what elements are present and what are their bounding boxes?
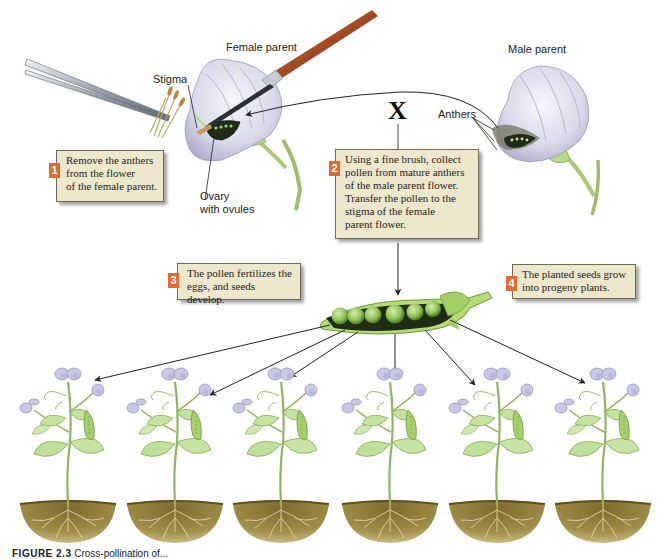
step-2-callout: Using a fine brush, collect pollen from … [335, 149, 479, 239]
step-1-badge: 1 [49, 163, 60, 178]
female-flower-illustration [185, 59, 300, 210]
figure-number: FIGURE 2.3 [12, 548, 71, 559]
progeny-plant-1 [20, 368, 116, 543]
progeny-plants-row [20, 368, 651, 543]
progeny-plant-5 [449, 368, 545, 543]
progeny-plant-2 [127, 368, 223, 543]
figure-caption: FIGURE 2.3 Cross-pollination of... [12, 548, 168, 559]
male-parent-label: Male parent [508, 43, 566, 56]
step-3-text: The pollen fertilizes the eggs, and seed… [187, 267, 294, 306]
progeny-plant-4 [342, 368, 438, 543]
cross-symbol: X [388, 98, 407, 124]
figure-caption-text: Cross-pollination of... [74, 548, 168, 559]
ovary-label: Ovary with ovules [200, 190, 254, 216]
step-2-text: Using a fine brush, collect pollen from … [345, 153, 472, 231]
progeny-plant-6 [555, 368, 651, 543]
progeny-plant-3 [233, 368, 329, 543]
step-4-callout: The planted seeds grow into progeny plan… [512, 264, 636, 299]
tweezers-illustration [25, 59, 170, 121]
step-2-badge: 2 [329, 161, 340, 176]
step-3-callout: The pollen fertilizes the eggs, and seed… [177, 263, 301, 300]
female-parent-label: Female parent [226, 41, 297, 54]
step-3-badge: 3 [168, 273, 179, 288]
male-flower-illustration [492, 66, 598, 215]
stigma-label: Stigma [153, 73, 187, 86]
step-4-text: The planted seeds grow into progeny plan… [522, 268, 629, 294]
anthers-label: Anthers [438, 108, 476, 121]
step-4-badge: 4 [506, 276, 517, 291]
step-1-text: Remove the anthers from the flower of th… [66, 154, 157, 193]
step-1-callout: Remove the anthers from the flower of th… [56, 150, 164, 202]
